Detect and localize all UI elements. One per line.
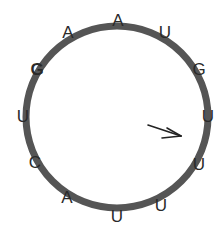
start-arrow <box>148 125 181 138</box>
nucleotide-u: U <box>193 155 205 174</box>
rna-ring <box>26 26 208 208</box>
nucleotide-u: U <box>17 107 29 126</box>
nucleotide-a: A <box>62 23 74 42</box>
nucleotide-u: U <box>159 23 171 42</box>
nucleotide-c: C <box>29 153 41 172</box>
nucleotide-a: A <box>112 11 124 30</box>
nucleotide-u: U <box>202 107 214 126</box>
nucleotide-a: A <box>61 188 73 207</box>
nucleotide-g: G <box>30 60 43 79</box>
nucleotide-g: G <box>192 60 205 79</box>
nucleotide-labels: AUGUUUUACUGA <box>17 11 214 226</box>
nucleotide-u: U <box>111 207 123 226</box>
circular-sequence-diagram: AUGUUUUACUGA <box>0 0 221 235</box>
nucleotide-u: U <box>155 196 167 215</box>
